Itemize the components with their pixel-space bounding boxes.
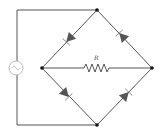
resistor-icon <box>84 64 109 72</box>
node-left <box>40 66 44 70</box>
diode-lower-left-icon <box>59 87 72 100</box>
wire-top-source <box>17 10 97 61</box>
node-bottom <box>95 123 99 127</box>
resistor-label: R <box>93 54 99 61</box>
bridge-rectifier-diagram: R <box>0 0 160 136</box>
node-right <box>150 66 154 70</box>
ac-source-icon <box>9 61 23 75</box>
node-top <box>95 8 99 12</box>
wire-bottom-source <box>17 75 97 125</box>
